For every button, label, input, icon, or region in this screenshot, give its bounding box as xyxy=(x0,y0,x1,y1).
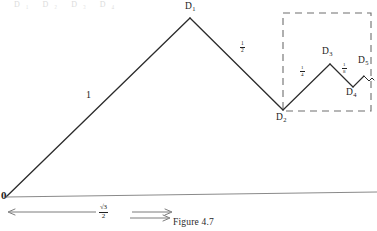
segment-d4-to-d5 xyxy=(353,76,364,87)
base-measure-arrow xyxy=(8,209,172,215)
figure-drawing xyxy=(0,0,377,231)
fraction-one-eighth-numerator: 1 xyxy=(342,62,347,69)
point-d1-sub: 1 xyxy=(192,5,195,12)
fraction-one-eighth-denominator: 8 xyxy=(342,69,347,75)
point-label-d1: D1 xyxy=(185,2,195,12)
fraction-one-half: 1 2 xyxy=(240,41,245,54)
point-d3-base: D xyxy=(322,46,329,56)
figure-caption: Figure 4.7 xyxy=(173,218,214,228)
segment-length-one-eighth: 1 8 xyxy=(342,59,347,75)
segment-d2-to-d3 xyxy=(283,64,330,110)
point-d3-sub: 3 xyxy=(329,50,332,57)
fraction-one-quarter-numerator: 1 xyxy=(300,65,305,72)
fraction-one-half-denominator: 2 xyxy=(240,48,245,54)
fraction-sqrt3-denominator: 2 xyxy=(99,213,108,221)
point-label-d3: D3 xyxy=(322,47,332,57)
segment-length-one-quarter: 1 4 xyxy=(300,62,305,78)
segment-length-1: 1 xyxy=(86,90,91,100)
fraction-sqrt3-over-2: √3 2 xyxy=(99,204,108,220)
point-d5-base: D xyxy=(358,55,365,65)
point-label-d2: D2 xyxy=(276,113,286,123)
segment-d5-tail xyxy=(364,76,374,81)
fraction-one-quarter-denominator: 4 xyxy=(300,72,305,78)
point-d5-sub: 5 xyxy=(365,59,368,66)
fraction-one-quarter: 1 4 xyxy=(300,65,305,77)
segment-d1-to-d2 xyxy=(190,18,283,110)
point-label-d4: D4 xyxy=(346,88,356,98)
base-measure-label: √3 2 xyxy=(99,203,108,221)
caption-lead-arrow xyxy=(130,215,170,221)
figure-container: D₁ D₂ D₃ D₄ 0 D1 D xyxy=(0,0,377,231)
segment-origin-to-d1 xyxy=(6,18,190,197)
baseline-axis xyxy=(6,192,377,197)
point-label-d5: D5 xyxy=(358,56,368,66)
fraction-one-eighth: 1 8 xyxy=(342,62,347,74)
point-d1-base: D xyxy=(185,1,192,11)
point-d4-sub: 4 xyxy=(353,91,356,98)
origin-label: 0 xyxy=(1,190,7,201)
point-d2-base: D xyxy=(276,112,283,122)
point-d2-sub: 2 xyxy=(283,116,286,123)
point-d4-base: D xyxy=(346,87,353,97)
segment-length-one-half: 1 2 xyxy=(240,38,245,54)
